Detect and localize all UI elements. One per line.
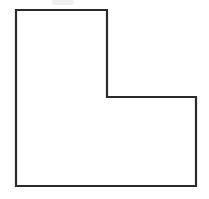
- l-shaped-polygon: [16, 10, 196, 186]
- figure-canvas: [0, 0, 209, 199]
- l-shape-diagram: [0, 0, 209, 199]
